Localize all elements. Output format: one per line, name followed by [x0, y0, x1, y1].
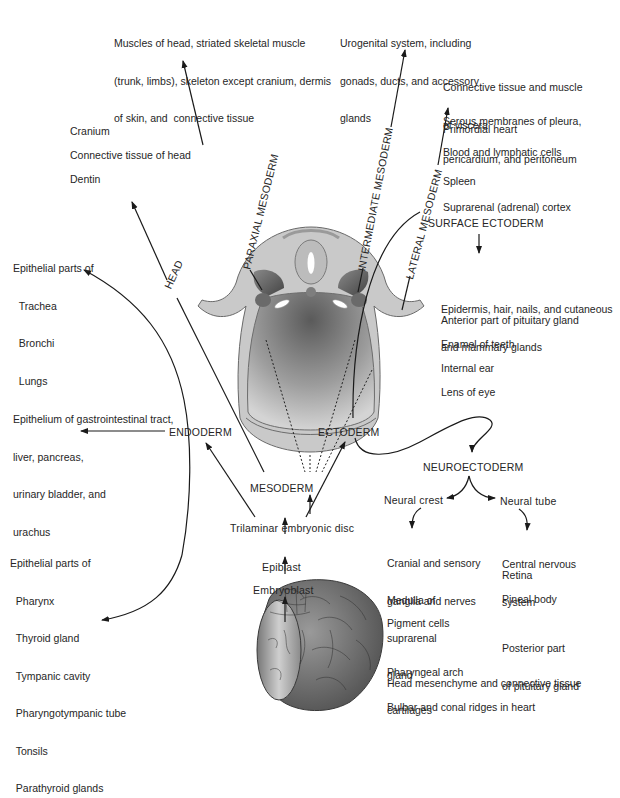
label-mesoderm: MESODERM	[250, 482, 313, 494]
head-derivative-dentin: Dentin	[70, 173, 100, 186]
surface-ectoderm-derivatives-3: Enamel of teeth	[441, 338, 515, 351]
lateral-derivatives-3: Primordial heart	[443, 123, 517, 136]
endoderm-respiratory: Epithelial parts of Trachea Bronchi Lung…	[13, 237, 94, 400]
neural-crest-derivatives-3: Pigment cells	[387, 617, 449, 630]
label-epiblast: Epiblast	[262, 561, 301, 573]
label-endoderm: ENDODERM	[169, 426, 232, 438]
lateral-derivatives-4: Blood and lymphatic cells	[443, 146, 561, 159]
label-neural-crest: Neural crest	[384, 494, 443, 506]
neural-tube-derivatives-2: Retina	[502, 569, 532, 582]
label-neuroectoderm: NEUROECTODERM	[423, 461, 523, 473]
lateral-derivatives-6: Suprarenal (adrenal) cortex	[443, 201, 571, 214]
endoderm-gi: Epithelium of gastrointestinal tract, li…	[13, 388, 174, 551]
lateral-derivatives-5: Spleen	[443, 175, 476, 188]
blastocyst-illustration	[257, 580, 383, 711]
neural-tube-derivatives-3: Pineal body	[502, 593, 557, 606]
paraxial-derivatives: Muscles of head, striated skeletal muscl…	[114, 12, 331, 137]
label-trilaminar-disc: Trilaminar embryonic disc	[230, 522, 354, 534]
surface-ectoderm-derivatives-4: Internal ear	[441, 362, 494, 375]
label-ectoderm: ECTODERM	[318, 426, 380, 438]
label-neural-tube: Neural tube	[500, 495, 556, 507]
embryo-cross-section	[198, 227, 424, 472]
surface-ectoderm-derivatives-5: Lens of eye	[441, 386, 495, 399]
surface-ectoderm-derivatives-2: Anterior part of pituitary gland	[441, 314, 579, 327]
label-surface-ectoderm: SURFACE ECTODERM	[428, 217, 544, 229]
head-derivative-cranium: Cranium	[70, 125, 110, 138]
endoderm-pharyngeal: Epithelial parts of Pharynx Thyroid glan…	[10, 532, 126, 798]
neural-tube-derivatives-4: Posterior part of pituitary gland	[502, 617, 579, 705]
label-embryoblast: Embryoblast	[253, 584, 314, 596]
head-derivative-connective: Connective tissue of head	[70, 149, 191, 162]
